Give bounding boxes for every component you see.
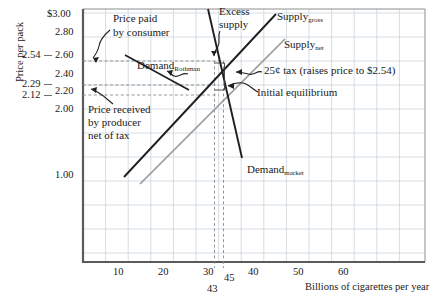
- x-callout-43: 43: [207, 283, 218, 295]
- label-supply-net-main: Supply: [284, 38, 315, 50]
- y-tick-254: 2.54: [22, 49, 40, 61]
- annotation-excess-line1: Excess: [219, 5, 250, 17]
- x-callout-45: 45: [224, 272, 235, 284]
- label-demand-rothman: DemandRothman: [137, 59, 200, 72]
- label-demand-market: Demandmarket: [247, 163, 304, 176]
- label-demand-rothman-main: Demand: [137, 59, 174, 71]
- label-supply-net-sub: net: [315, 44, 324, 52]
- y-tick-260: 2.60: [55, 49, 73, 61]
- y-tick-280: 2.80: [55, 26, 73, 38]
- leader-dash-212: [44, 95, 52, 96]
- plot-frame: [82, 9, 425, 262]
- annotation-tax-note: 25¢ tax (raises price to $2.54): [264, 64, 395, 76]
- annotation-price-received-line3: net of tax: [88, 129, 130, 141]
- grid-lines: [83, 9, 425, 262]
- leader-dash-254: [44, 55, 52, 56]
- annotation-price-paid-line1: Price paid: [113, 12, 157, 24]
- leader-dash-229: [44, 84, 52, 85]
- annotation-price-received-line1: Price received: [88, 103, 151, 115]
- curve-supply-gross: [124, 14, 276, 177]
- y-tick-300: $3.00: [47, 8, 71, 20]
- label-supply-net: Supplynet: [284, 38, 324, 51]
- y-tick-212: 2.12: [22, 89, 40, 101]
- y-tick-200: 2.00: [55, 103, 73, 115]
- label-demand-market-sub: market: [284, 169, 303, 177]
- y-tick-220: 2.20: [55, 85, 73, 97]
- x-tick-10: 10: [113, 266, 124, 278]
- x-tick-50: 50: [293, 266, 304, 278]
- label-supply-gross-main: Supply: [277, 10, 308, 22]
- annotation-price-paid-line2: by consumer: [113, 26, 170, 38]
- x-tick-20: 20: [158, 266, 169, 278]
- x-tick-30: 30: [203, 266, 214, 278]
- y-tick-229: 2.29: [22, 78, 40, 90]
- y-tick-240: 2.40: [55, 68, 73, 80]
- label-supply-gross: Supplygross: [277, 10, 323, 23]
- x-tick-60: 60: [338, 266, 349, 278]
- x-axis-title: Billions of cigarettes per year: [305, 281, 429, 293]
- annotation-price-received-line2: by producer: [88, 116, 141, 128]
- x-tick-40: 40: [248, 266, 259, 278]
- annotation-initial-equilibrium: Initial equilibrium: [257, 86, 337, 98]
- label-demand-market-main: Demand: [247, 163, 284, 175]
- label-supply-gross-sub: gross: [308, 16, 323, 24]
- chart-canvas: [0, 0, 439, 298]
- figure-root: Price per pack $3.00 2.80 2.60 2.40 2.20…: [0, 0, 439, 298]
- y-tick-100: 1.00: [55, 169, 73, 181]
- annotation-excess-line2: supply: [219, 18, 248, 30]
- label-demand-rothman-sub: Rothman: [174, 65, 200, 73]
